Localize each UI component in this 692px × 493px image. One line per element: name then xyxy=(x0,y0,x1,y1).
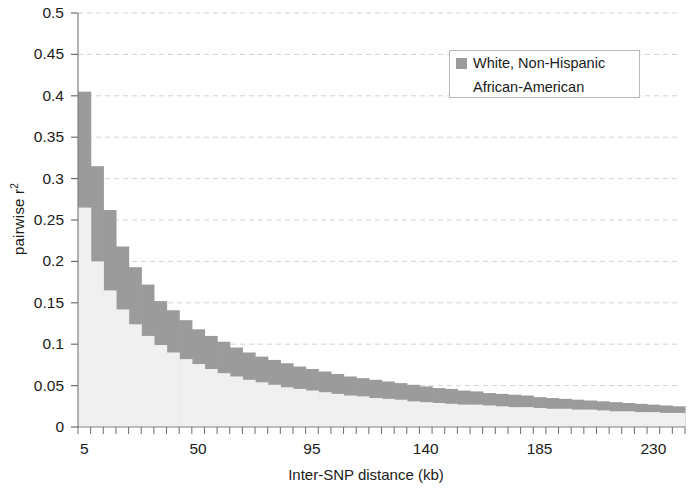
x-axis-tick-label: 95 xyxy=(282,441,342,457)
bar xyxy=(255,382,268,427)
bar xyxy=(116,309,129,427)
bar xyxy=(533,408,546,427)
bar xyxy=(331,394,344,427)
bar xyxy=(344,396,357,427)
x-axis-tick-label: 185 xyxy=(510,441,570,457)
y-axis-tick-label: 0.4 xyxy=(8,88,64,104)
bar xyxy=(419,402,432,427)
chart-legend: White, Non-Hispanic African-American xyxy=(449,50,640,98)
bar xyxy=(672,413,685,427)
bar xyxy=(609,411,622,427)
bar xyxy=(495,406,508,427)
y-axis-tick-label: 0.05 xyxy=(8,378,64,394)
bar xyxy=(559,409,572,427)
bar xyxy=(445,404,458,427)
bar xyxy=(660,413,673,427)
bar xyxy=(318,392,331,427)
y-axis-title-text: pairwise r xyxy=(10,189,27,255)
bar xyxy=(584,410,597,427)
bar xyxy=(622,411,635,427)
bar xyxy=(546,409,559,427)
x-axis-title: Inter-SNP distance (kb) xyxy=(0,466,692,483)
bar xyxy=(571,410,584,427)
bar xyxy=(217,373,230,427)
bar xyxy=(192,364,205,427)
bar xyxy=(141,336,154,427)
bar xyxy=(508,407,521,427)
x-axis-tick-label: 50 xyxy=(168,441,228,457)
y-axis-tick-label: 0 xyxy=(8,419,64,435)
y-axis-title: pairwise r2 xyxy=(9,139,27,299)
bar xyxy=(280,387,293,427)
bar xyxy=(483,405,496,427)
bar xyxy=(268,385,281,427)
bar xyxy=(407,401,420,427)
y-axis-tick-label: 0.1 xyxy=(8,336,64,352)
x-axis-title-text: Inter-SNP distance (kb) xyxy=(248,466,444,483)
x-axis-tick-label: 5 xyxy=(54,441,114,457)
bar xyxy=(596,410,609,427)
legend-label: African-American xyxy=(473,79,584,95)
bar xyxy=(230,376,243,427)
x-axis-tick-label: 140 xyxy=(396,441,456,457)
chart-figure: 0.50.450.40.350.30.250.20.150.10.050 550… xyxy=(0,0,692,493)
bar xyxy=(167,352,180,427)
y-axis-title-exponent: 2 xyxy=(9,183,20,189)
bar xyxy=(647,412,660,427)
y-axis-tick-label: 0.45 xyxy=(8,46,64,62)
bar xyxy=(91,261,104,427)
bar xyxy=(103,290,116,427)
y-tick-marks xyxy=(71,13,78,427)
x-axis-tick-label: 230 xyxy=(623,441,683,457)
bar xyxy=(382,399,395,427)
legend-item-white-non-hispanic: White, Non-Hispanic xyxy=(450,51,639,75)
bar xyxy=(394,400,407,427)
bar xyxy=(306,391,319,427)
legend-item-african-american: African-American xyxy=(450,75,639,99)
bar xyxy=(369,398,382,427)
bar xyxy=(432,403,445,427)
bar xyxy=(78,208,91,427)
y-axis-tick-label: 0.5 xyxy=(8,5,64,21)
x-tick-marks xyxy=(78,427,685,434)
bar xyxy=(470,405,483,427)
bar xyxy=(204,369,217,427)
bar xyxy=(356,396,369,427)
bar xyxy=(179,359,192,427)
bar xyxy=(521,407,534,427)
bar xyxy=(129,324,142,427)
bar xyxy=(634,412,647,427)
bar xyxy=(293,389,306,427)
legend-label: White, Non-Hispanic xyxy=(473,55,605,71)
bar xyxy=(457,405,470,427)
bar xyxy=(242,380,255,427)
legend-swatch-icon xyxy=(456,58,467,69)
bar xyxy=(154,345,167,427)
